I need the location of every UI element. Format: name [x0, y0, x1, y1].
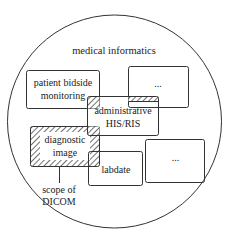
dicom-line2: DICOM [34, 196, 84, 207]
diagnostic-label: diagnostic image [31, 134, 99, 158]
dicom-line1: scope of [34, 184, 84, 195]
admin-line1: administrative [88, 105, 158, 116]
bottom-right-label: ... [146, 152, 205, 163]
patient-line1: patient bidside [27, 77, 99, 88]
admin-label: administrative HIS/RIS [88, 105, 158, 129]
patient-line2: monitoring [27, 90, 99, 101]
patient-label: patient bidside monitoring [27, 77, 99, 101]
labdate-label: labdate [89, 164, 143, 175]
diagnostic-line1: diagnostic [31, 134, 99, 145]
dicom-annotation: scope of DICOM [34, 184, 84, 207]
title-label: medical informatics [60, 45, 168, 56]
admin-line2: HIS/RIS [88, 118, 158, 129]
top-right-label: ... [128, 78, 188, 89]
diagnostic-line2: image [31, 147, 99, 158]
overlap-top-admin [129, 97, 159, 102]
